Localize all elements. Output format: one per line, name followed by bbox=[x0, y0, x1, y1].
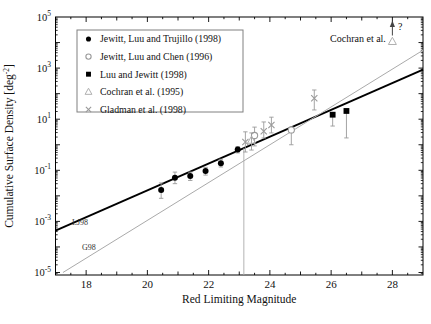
legend-label: Cochran et al. (1995) bbox=[100, 86, 183, 98]
y-tick-label: 105 bbox=[37, 9, 52, 23]
legend-row-4: Cochran et al. (1995) bbox=[85, 86, 183, 98]
x-tick-label: 22 bbox=[203, 278, 214, 290]
arrow-up-icon bbox=[390, 21, 395, 28]
x-tick-label: 26 bbox=[326, 278, 338, 290]
y-tick-label: 10-5 bbox=[34, 265, 51, 279]
y-tick-label: 10-1 bbox=[34, 162, 51, 176]
legend-row-2: Jewitt, Luu and Chen (1996) bbox=[86, 51, 213, 63]
y-tick-label: 101 bbox=[37, 111, 52, 125]
question-mark-annotation: ? bbox=[398, 21, 403, 32]
x-tick-label: 28 bbox=[387, 278, 399, 290]
y-tick-label: 10-3 bbox=[34, 213, 51, 227]
legend-filled-square-icon bbox=[86, 72, 91, 77]
y-tick-label: 103 bbox=[37, 60, 52, 74]
legend-open-circle-icon bbox=[86, 54, 91, 59]
cochran-annotation-label: Cochran et al. bbox=[330, 33, 386, 44]
x-tick-label: 24 bbox=[264, 278, 276, 290]
annotations: ?Cochran et al. bbox=[330, 21, 403, 44]
legend-filled-circle-icon bbox=[86, 36, 91, 41]
legend: Jewitt, Luu and Trujillo (1998)Jewitt, L… bbox=[77, 30, 243, 116]
kuiper-belt-surface-density-figure: 18202224262810510310110-110-310-5Red Lim… bbox=[0, 0, 431, 324]
x-tick-label: 18 bbox=[81, 278, 93, 290]
legend-label: Gladman et al. (1998) bbox=[100, 104, 186, 116]
legend-label: Jewitt, Luu and Trujillo (1998) bbox=[100, 33, 221, 45]
x-tick-label: 20 bbox=[142, 278, 154, 290]
legend-row-5: Gladman et al. (1998) bbox=[86, 104, 186, 116]
legend-row-1: Jewitt, Luu and Trujillo (1998) bbox=[86, 33, 221, 45]
chart-canvas: 18202224262810510310110-110-310-5Red Lim… bbox=[0, 0, 431, 324]
legend-row-3: Luu and Jewitt (1998) bbox=[86, 69, 187, 81]
y-axis-label: Cumulative Surface Density [deg-2] bbox=[2, 64, 16, 228]
x-axis-label: Red Limiting Magnitude bbox=[182, 293, 296, 306]
legend-label: Jewitt, Luu and Chen (1996) bbox=[100, 51, 212, 63]
legend-label: Luu and Jewitt (1998) bbox=[100, 69, 187, 81]
lj98-line-label: LJ98 bbox=[72, 218, 88, 227]
g98-line-label: G98 bbox=[82, 243, 96, 252]
series-3-filled-square bbox=[330, 108, 350, 138]
